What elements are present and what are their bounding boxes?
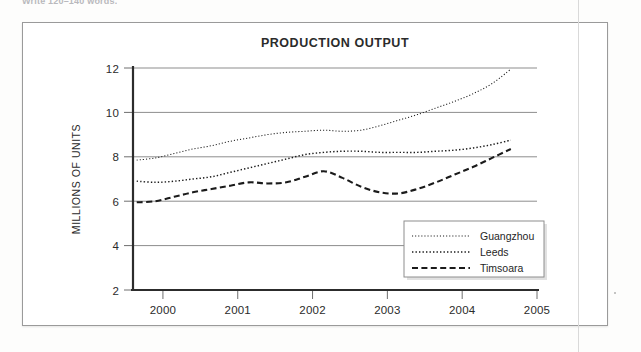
x-tick-label: 2004 [449, 304, 476, 316]
y-tick-label: 2 [112, 285, 119, 297]
y-tick-label: 6 [112, 196, 119, 208]
x-tick-label: 2000 [150, 304, 176, 316]
line-chart: PRODUCTION OUTPUTMILLIONS OF UNITS246810… [0, 0, 641, 352]
legend-label-leeds: Leeds [480, 246, 509, 258]
y-axis-title: MILLIONS OF UNITS [70, 124, 82, 234]
x-tick-label: 2003 [374, 304, 400, 316]
y-tick-label: 10 [106, 107, 119, 119]
y-tick-label: 4 [112, 240, 119, 252]
x-tick-label: 2002 [299, 304, 325, 316]
legend-label-timsoara: Timsoara [480, 262, 524, 274]
y-tick-label: 8 [112, 151, 119, 163]
x-tick-label: 2005 [524, 304, 550, 316]
x-tick-label: 2001 [225, 304, 251, 316]
y-tick-label: 12 [106, 63, 119, 75]
scanned-page: Write 120–140 words. PRODUCTION OUTPUTMI… [0, 0, 641, 352]
chart-title: PRODUCTION OUTPUT [261, 36, 409, 50]
series-line-leeds [137, 140, 511, 182]
series-line-guangzhou [137, 69, 511, 160]
legend-label-guangzhou: Guangzhou [480, 230, 534, 242]
